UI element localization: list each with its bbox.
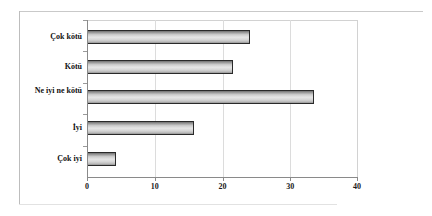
x-axis-tick-label-3: 30 [286,182,294,191]
bar-chart-figure: Çok kötü Kötü Ne iyi ne kötü İyi Çok iyi… [0,0,432,216]
y-axis-category-label-1: Kötü [4,62,82,72]
bar-cok-iyi[interactable] [87,152,116,166]
y-axis-category-label-0: Çok kötü [4,32,82,42]
y-axis-line [87,20,88,178]
x-axis-tick-30 [290,177,291,181]
plot-right-border [357,20,358,177]
x-axis-tick-label-2: 20 [219,182,227,191]
y-axis-category-label-4: Çok iyi [4,154,82,164]
bar-kotu[interactable] [87,60,233,74]
x-axis-tick-10 [155,177,156,181]
x-axis-tick-40 [357,177,358,181]
x-axis-tick-20 [223,177,224,181]
figure-top-rule [19,11,423,12]
bar-cok-kotu[interactable] [87,30,250,44]
x-axis-tick-label-4: 40 [353,182,361,191]
x-axis-tick-label-0: 0 [85,182,89,191]
bar-ne-iyi-ne-kotu[interactable] [87,90,314,104]
y-axis-category-label-3: İyi [4,123,82,133]
plot-area: 0 10 20 30 40 [87,20,358,177]
figure-frame-bottom-edge [19,204,337,205]
y-axis-category-label-2: Ne iyi ne kötü [4,86,82,96]
bar-iyi[interactable] [87,121,194,135]
x-axis-tick-label-1: 10 [151,182,159,191]
x-axis-tick-0 [87,177,88,181]
